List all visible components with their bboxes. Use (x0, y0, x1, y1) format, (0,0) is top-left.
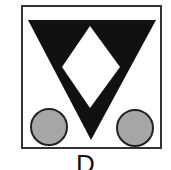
right-circle-shape (117, 110, 153, 146)
left-circle-shape (31, 109, 67, 145)
figure-caption-label: D (0, 149, 171, 170)
figure-canvas (0, 0, 171, 170)
